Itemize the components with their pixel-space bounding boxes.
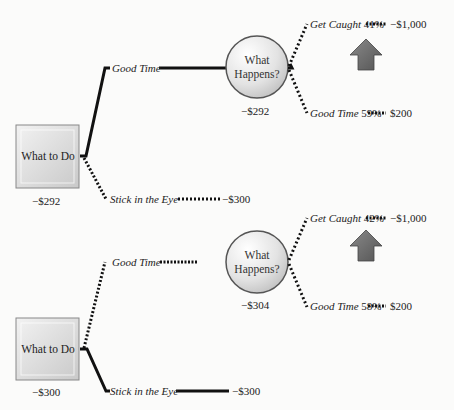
- up-arrow-icon-1: [350, 39, 382, 70]
- decision-label-2: What to Do: [16, 343, 80, 356]
- chance-label-2: What Happens?: [224, 248, 290, 276]
- outcome-get-caught-1: Get Caught 41%: [310, 18, 384, 30]
- outcome-percent: 41%: [364, 18, 384, 30]
- branch-stick-eye-2: [80, 349, 110, 391]
- chance-value-1: −$292: [241, 105, 269, 117]
- outcome-get-caught-2: Get Caught 42%: [310, 212, 384, 224]
- chance-label-line1: What: [245, 54, 270, 66]
- outcome-value-get-caught-1: −$1,000: [390, 18, 426, 30]
- branch-label-stick-eye-1: Stick in the Eye: [110, 193, 178, 205]
- branch-good-time-2: [84, 262, 105, 348]
- outcome-percent: 42%: [364, 212, 384, 224]
- branch-label-stick-eye-2: Stick in the Eye: [110, 385, 178, 397]
- decision-tree-canvas: What to Do −$292 Good Time Stick in the …: [0, 0, 454, 410]
- chance-label-line1: What: [245, 249, 270, 261]
- chance-label-1: What Happens?: [224, 53, 290, 81]
- chance-label-line2: Happens?: [234, 68, 279, 80]
- outcome-label: Good Time: [310, 300, 359, 312]
- outcome-label: Get Caught: [310, 18, 361, 30]
- outcome-value-good-time-1: $200: [390, 107, 412, 119]
- branch-good-time-1: [80, 68, 110, 156]
- chance-value-2: −$304: [241, 299, 269, 311]
- outcome-label: Get Caught: [310, 212, 361, 224]
- outcome-label: Good Time: [310, 107, 359, 119]
- branch-label-good-time-1: Good Time: [112, 62, 161, 74]
- up-arrow-icon-2: [350, 230, 382, 261]
- chance-label-line2: Happens?: [234, 263, 279, 275]
- outcome-good-time-1: Good Time 59%: [310, 107, 382, 119]
- outcome-value-good-time-2: $200: [390, 300, 412, 312]
- branch-label-good-time-2: Good Time: [112, 256, 161, 268]
- outcome-percent: 58%: [361, 300, 381, 312]
- branch-value-stick-eye-1: −$300: [222, 193, 250, 205]
- outcome-value-get-caught-2: −$1,000: [390, 212, 426, 224]
- branch-stick-eye-1: [84, 158, 106, 199]
- outcome-percent: 59%: [361, 107, 381, 119]
- outcome-good-time-2: Good Time 58%: [310, 300, 382, 312]
- decision-label-1: What to Do: [16, 150, 80, 163]
- decision-value-2: −$300: [32, 386, 60, 398]
- decision-value-1: −$292: [32, 195, 60, 207]
- branch-value-stick-eye-2: −$300: [232, 385, 260, 397]
